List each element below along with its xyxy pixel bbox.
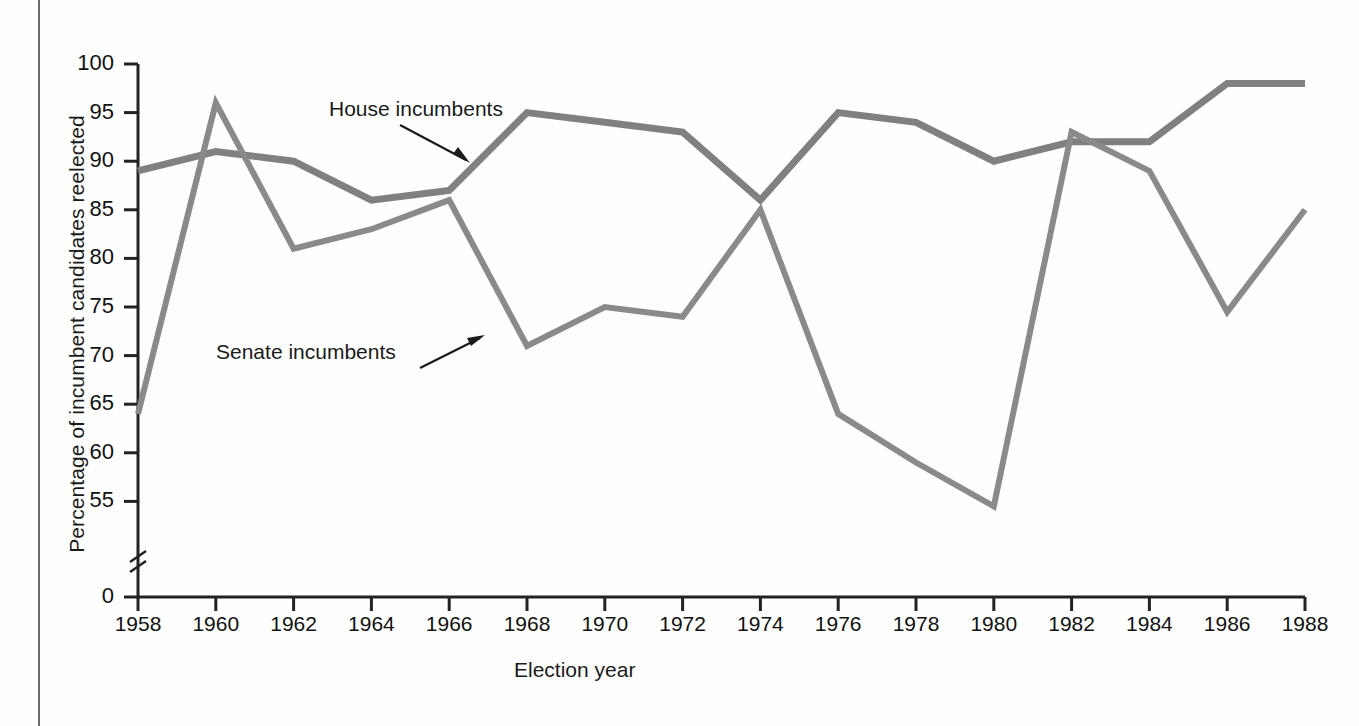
house-annotation-arrow-icon — [400, 125, 470, 163]
x-tick-label: 1972 — [643, 612, 723, 636]
x-tick-label: 1974 — [720, 612, 800, 636]
x-tick-label: 1976 — [798, 612, 878, 636]
x-tick-label: 1978 — [876, 612, 956, 636]
series-line-house-incumbents — [138, 83, 1305, 200]
series-label-senate-incumbents: Senate incumbents — [216, 340, 396, 364]
x-tick-label: 1960 — [176, 612, 256, 636]
x-tick-label: 1968 — [487, 612, 567, 636]
x-tick-label: 1966 — [409, 612, 489, 636]
y-tick-label: 100 — [54, 50, 114, 76]
x-tick-label: 1964 — [331, 612, 411, 636]
x-axis-ticks — [138, 597, 1305, 611]
x-tick-label: 1962 — [254, 612, 334, 636]
x-tick-label: 1970 — [565, 612, 645, 636]
series-label-house-incumbents: House incumbents — [329, 97, 503, 121]
x-axis-title: Election year — [514, 658, 635, 682]
y-axis-ticks — [124, 64, 138, 597]
x-tick-label: 1980 — [954, 612, 1034, 636]
x-tick-label: 1982 — [1032, 612, 1112, 636]
x-tick-label: 1986 — [1187, 612, 1267, 636]
x-tick-label: 1984 — [1109, 612, 1189, 636]
figure-page: 1009590858075706560550 19581960196219641… — [0, 0, 1359, 726]
line-chart-figure: 1009590858075706560550 19581960196219641… — [0, 0, 1359, 726]
y-axis-title: Percentage of incumbent candidates reele… — [65, 74, 89, 594]
x-tick-label: 1988 — [1265, 612, 1345, 636]
x-tick-label: 1958 — [98, 612, 178, 636]
senate-annotation-arrow-icon — [420, 335, 485, 368]
